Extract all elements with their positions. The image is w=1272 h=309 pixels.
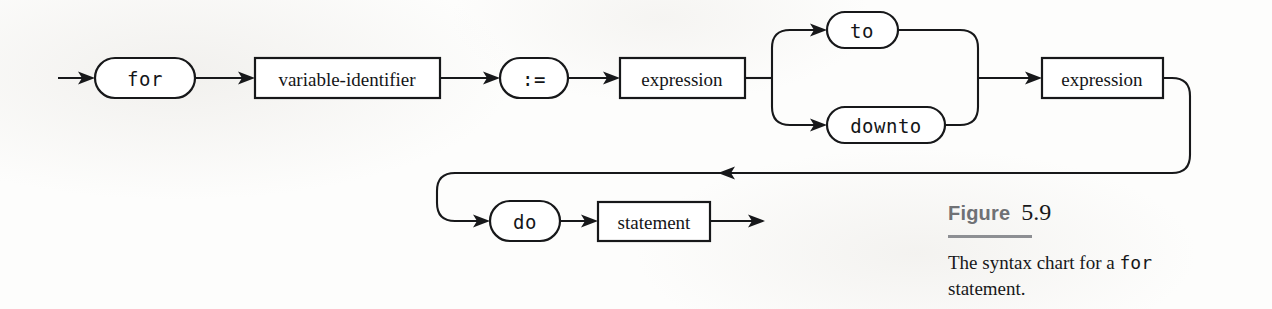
node-downto-label: downto: [850, 115, 922, 137]
wire-merge-lower: [945, 78, 978, 125]
figure-caption-heading: Figure 5.9: [948, 199, 1248, 229]
caption-suffix: statement.: [948, 278, 1026, 299]
node-downto[interactable]: downto: [827, 107, 945, 143]
node-assignment-operator[interactable]: :=: [500, 58, 568, 98]
node-to[interactable]: to: [827, 12, 898, 48]
figure-page: for variable-identifier := expression to…: [0, 0, 1272, 309]
node-variable-identifier-label: variable-identifier: [278, 69, 416, 90]
node-expression-limit-label: expression: [1061, 69, 1143, 90]
wire-split-lower: [772, 78, 824, 125]
node-expression-start-label: expression: [641, 69, 723, 90]
figure-caption-rule: [948, 235, 1032, 238]
wire-split-upper: [772, 30, 824, 78]
node-do[interactable]: do: [490, 201, 560, 241]
caption-keyword: for: [1119, 252, 1152, 273]
node-for-label: for: [127, 68, 163, 90]
node-expression-limit[interactable]: expression: [1042, 58, 1163, 98]
node-variable-identifier[interactable]: variable-identifier: [255, 58, 440, 98]
figure-label-word: Figure: [948, 202, 1010, 225]
node-to-label: to: [850, 20, 874, 42]
node-statement[interactable]: statement: [598, 202, 710, 241]
node-expression-start[interactable]: expression: [620, 58, 745, 98]
node-do-label: do: [513, 211, 537, 233]
node-statement-label: statement: [618, 212, 692, 233]
figure-number: 5.9: [1021, 199, 1051, 226]
figure-caption-text: The syntax chart for a for statement.: [948, 250, 1200, 302]
node-assignment-operator-label: :=: [522, 68, 546, 90]
figure-caption: Figure 5.9 The syntax chart for a for st…: [948, 199, 1248, 302]
node-for[interactable]: for: [95, 58, 195, 98]
caption-prefix: The syntax chart for a: [948, 252, 1119, 273]
wire-merge-upper: [898, 30, 978, 78]
